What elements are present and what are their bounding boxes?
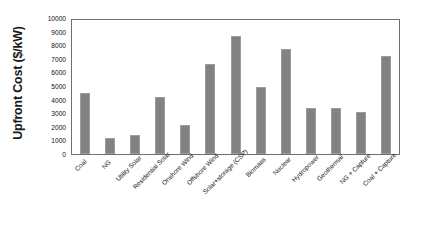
bar-slot [122, 20, 147, 154]
bar[interactable] [281, 49, 291, 154]
bar[interactable] [205, 64, 215, 154]
x-axis-tick: Coal [74, 158, 88, 172]
y-axis-tick: 7000 [51, 57, 66, 64]
bar[interactable] [306, 108, 316, 154]
bar[interactable] [80, 93, 90, 154]
bar[interactable] [381, 56, 391, 154]
bar[interactable] [331, 108, 341, 154]
bars-layer [72, 20, 399, 154]
bar[interactable] [105, 138, 115, 154]
bar-chart-figure: Upfront Cost ($/kW) 10000900080007000600… [0, 0, 427, 233]
y-axis-tick: 6000 [51, 70, 66, 77]
bar-slot [147, 20, 172, 154]
y-axis-tick: 0 [62, 152, 66, 159]
y-axis-title-label: Upfront Cost ($/kW) [11, 26, 25, 139]
bar-slot [324, 20, 349, 154]
x-axis-tick: Hydropower [291, 154, 320, 183]
plot-area [71, 19, 400, 155]
bar-slot [97, 20, 122, 154]
y-axis-tick: 5000 [51, 84, 66, 91]
bar-slot [298, 20, 323, 154]
y-axis-tick: 8000 [51, 43, 66, 50]
x-axis-tick: Biomass [245, 156, 267, 178]
y-axis-tick-labels: 1000090008000700060005000400030002000100… [36, 19, 69, 155]
y-axis-title: Upfront Cost ($/kW) [0, 0, 36, 165]
bar[interactable] [180, 125, 190, 154]
x-axis-tick-labels: CoalNGUtility SolarResidential SolarOnsh… [71, 156, 400, 233]
bar[interactable] [130, 135, 140, 154]
bar-slot [198, 20, 223, 154]
x-axis-tick: Nuclear [272, 157, 292, 177]
x-axis-tick: NG [101, 159, 112, 170]
bar[interactable] [356, 112, 366, 154]
y-axis-tick: 1000 [51, 138, 66, 145]
bar-slot [248, 20, 273, 154]
bar-slot [72, 20, 97, 154]
bar[interactable] [256, 87, 266, 154]
y-axis-tick: 3000 [51, 111, 66, 118]
y-axis-tick: 2000 [51, 125, 66, 132]
bar-slot [349, 20, 374, 154]
bar[interactable] [155, 97, 165, 154]
bar-slot [173, 20, 198, 154]
y-axis-tick: 9000 [51, 29, 66, 36]
bar-slot [374, 20, 399, 154]
y-axis-tick: 4000 [51, 97, 66, 104]
bar-slot [273, 20, 298, 154]
bar-slot [223, 20, 248, 154]
y-axis-tick: 10000 [48, 16, 66, 23]
bar[interactable] [231, 36, 241, 154]
